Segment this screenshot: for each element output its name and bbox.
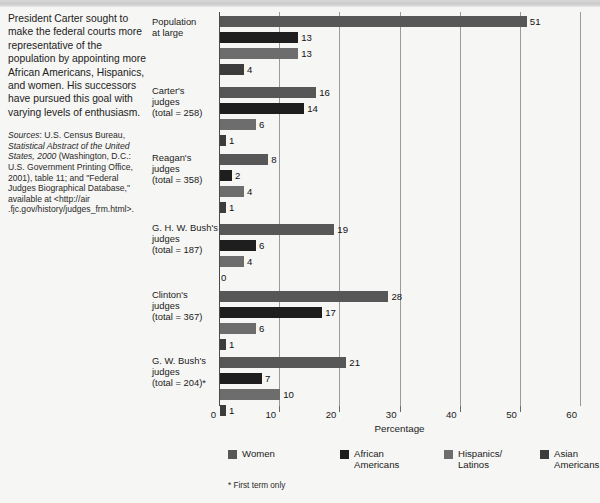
bar	[220, 389, 280, 400]
tick-mark-10	[279, 406, 280, 412]
tick-label-30: 30	[386, 409, 400, 420]
tick-mark-20	[339, 406, 340, 412]
legend-swatch	[540, 450, 549, 459]
sources-note: Sources: U.S. Census Bureau, Statistical…	[8, 130, 148, 215]
legend-swatch	[340, 450, 349, 459]
legend-item: AsianAmericans	[540, 449, 599, 471]
category-label-line: judges	[152, 163, 202, 174]
bar	[220, 339, 226, 350]
bar-value-label: 19	[337, 224, 348, 235]
category-label: Reagan'sjudges(total = 358)	[152, 152, 202, 185]
bar	[220, 119, 256, 130]
tick-label-0: 0	[211, 409, 219, 420]
gridline-10	[279, 12, 280, 406]
category-label-line: (total = 358)	[152, 174, 202, 185]
bar	[220, 103, 304, 114]
legend-label: AfricanAmericans	[354, 449, 399, 471]
sources-label: Sources	[8, 130, 40, 140]
bar	[220, 16, 527, 27]
category-label-line: judges	[152, 96, 202, 107]
legend-swatch	[444, 450, 453, 459]
legend-item: Hispanics/Latinos	[444, 449, 502, 471]
tick-mark-30	[400, 406, 401, 412]
category-label-line: Carter's	[152, 85, 202, 96]
bar	[220, 48, 298, 59]
bar	[220, 224, 334, 235]
gridline-40	[460, 12, 461, 406]
bar	[220, 307, 322, 318]
left-text-column: President Carter sought to make the fede…	[8, 12, 148, 215]
category-label: G. W. Bush'sjudges(total = 204)*	[152, 355, 206, 388]
scan-artifact-band	[0, 0, 600, 7]
legend-swatch	[228, 450, 237, 459]
description-paragraph: President Carter sought to make the fede…	[8, 12, 148, 119]
category-label-line: G. W. Bush's	[152, 355, 206, 366]
bar-value-label: 6	[259, 323, 264, 334]
bar-value-label: 8	[271, 154, 276, 165]
tick-label-60: 60	[566, 409, 580, 420]
category-label: Carter'sjudges(total = 258)	[152, 85, 202, 118]
bar	[220, 291, 388, 302]
category-label-line: (total = 187)	[152, 244, 218, 255]
bar-value-label: 6	[259, 119, 264, 130]
gridline-30	[400, 12, 401, 406]
bar	[220, 64, 244, 75]
category-label-line: Clinton's	[152, 289, 202, 300]
category-label-line: at large	[152, 27, 196, 38]
legend-label-line: Women	[242, 449, 275, 460]
sources-line1: : U.S. Census Bureau,	[40, 130, 126, 140]
bar-value-label: 17	[325, 307, 336, 318]
tick-label-10: 10	[265, 409, 279, 420]
legend-label-line: Americans	[554, 460, 599, 471]
legend-item: Women	[228, 449, 275, 460]
bar	[220, 87, 316, 98]
category-label: Clinton'sjudges(total = 367)	[152, 289, 202, 322]
gridline-60	[580, 12, 581, 406]
tick-label-20: 20	[326, 409, 340, 420]
bar-value-label: 51	[530, 16, 541, 27]
bar-value-label: 13	[301, 32, 312, 43]
category-label-line: judges	[152, 233, 218, 244]
legend-label: AsianAmericans	[554, 449, 599, 471]
footnote: * First term only	[228, 481, 285, 490]
tick-label-40: 40	[446, 409, 460, 420]
bar	[220, 186, 244, 197]
bar	[220, 32, 298, 43]
bar	[220, 135, 226, 146]
x-axis-label: Percentage	[219, 423, 580, 434]
bar-value-label: 6	[259, 240, 264, 251]
bar	[220, 170, 232, 181]
bar-value-label: 4	[247, 64, 252, 75]
category-label: G. H. W. Bush'sjudges(total = 187)	[152, 222, 218, 255]
category-label-line: (total = 204)*	[152, 377, 206, 388]
gridline-50	[520, 12, 521, 406]
gridline-20	[339, 12, 340, 406]
bar-value-label: 1	[229, 202, 234, 213]
tick-label-50: 50	[506, 409, 520, 420]
bar	[220, 256, 244, 267]
legend-label-line: Latinos	[458, 460, 502, 471]
category-label-line: Reagan's	[152, 152, 202, 163]
tick-mark-40	[460, 406, 461, 412]
legend-label: Women	[242, 449, 275, 460]
tick-mark-50	[520, 406, 521, 412]
bar	[220, 323, 256, 334]
bar-value-label: 21	[349, 357, 360, 368]
category-label: Populationat large	[152, 16, 196, 38]
category-label-line: G. H. W. Bush's	[152, 222, 218, 233]
bar-value-label: 1	[229, 135, 234, 146]
bar-value-label: 4	[247, 256, 252, 267]
bar	[220, 240, 256, 251]
bar	[220, 154, 268, 165]
x-axis-ticks: 0102030405060	[219, 406, 580, 420]
category-label-line: judges	[152, 366, 206, 377]
bar-value-label: 4	[247, 186, 252, 197]
bar	[220, 357, 346, 368]
bar-value-label: 1	[229, 339, 234, 350]
bar-value-label: 10	[283, 389, 294, 400]
bar-value-label: 0	[221, 272, 226, 283]
legend-item: AfricanAmericans	[340, 449, 399, 471]
category-label-line: Population	[152, 16, 196, 27]
bar-value-label: 14	[307, 103, 318, 114]
bar	[220, 373, 262, 384]
